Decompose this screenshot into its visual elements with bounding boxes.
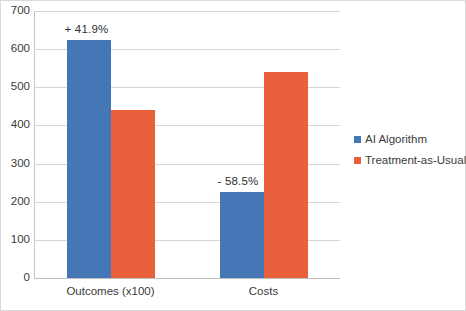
data-label: - 58.5% bbox=[218, 176, 259, 188]
legend-item[interactable]: Treatment-as-Usual bbox=[354, 155, 466, 167]
y-axis-tick-label: 400 bbox=[0, 120, 30, 132]
legend-label: AI Algorithm bbox=[365, 134, 427, 146]
x-axis-category-label: Costs bbox=[249, 286, 278, 298]
y-axis-tick-label: 500 bbox=[0, 82, 30, 94]
legend-swatch-icon bbox=[354, 157, 361, 164]
legend-item[interactable]: AI Algorithm bbox=[354, 134, 466, 146]
gridline bbox=[34, 11, 340, 12]
data-label: + 41.9% bbox=[65, 24, 109, 36]
legend-label: Treatment-as-Usual bbox=[365, 155, 466, 167]
bar bbox=[111, 110, 155, 278]
bar bbox=[264, 72, 308, 278]
y-axis-tick-label: 100 bbox=[0, 234, 30, 246]
y-axis-tick-label: 700 bbox=[0, 5, 30, 17]
y-axis-tick-label: 300 bbox=[0, 158, 30, 170]
y-axis-tick-label: 200 bbox=[0, 196, 30, 208]
y-axis-tick-label: 600 bbox=[0, 43, 30, 55]
x-axis-category-label: Outcomes (x100) bbox=[66, 286, 154, 298]
chart-legend: AI AlgorithmTreatment-as-Usual bbox=[354, 134, 466, 175]
gridline bbox=[34, 278, 340, 279]
bar-chart: 0100200300400500600700 + 41.9%- 58.5% Ou… bbox=[0, 0, 466, 311]
plot-area: + 41.9%- 58.5% bbox=[34, 11, 340, 278]
legend-swatch-icon bbox=[354, 136, 361, 143]
y-axis-tick-label: 0 bbox=[0, 272, 30, 284]
y-axis-tick-labels: 0100200300400500600700 bbox=[0, 11, 30, 278]
bar bbox=[67, 40, 111, 278]
bar bbox=[220, 192, 264, 278]
